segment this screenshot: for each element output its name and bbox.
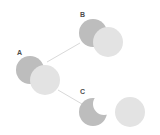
diagram-canvas: A B C [0, 0, 160, 135]
group-c-shapes [79, 93, 145, 127]
group-b-shapes [79, 19, 123, 57]
connector-a-to-c [58, 90, 82, 104]
group-b-light-circle [93, 27, 123, 57]
group-label-c: C [80, 88, 85, 95]
connector-a-to-b [47, 43, 80, 62]
set-relation-figure [0, 0, 160, 135]
group-a-shapes [16, 56, 60, 95]
group-a-light-circle [30, 65, 60, 95]
group-label-b: B [80, 11, 85, 18]
group-label-a: A [17, 49, 22, 56]
group-c-notch-circle [93, 93, 115, 115]
group-c-light-circle [115, 97, 145, 127]
